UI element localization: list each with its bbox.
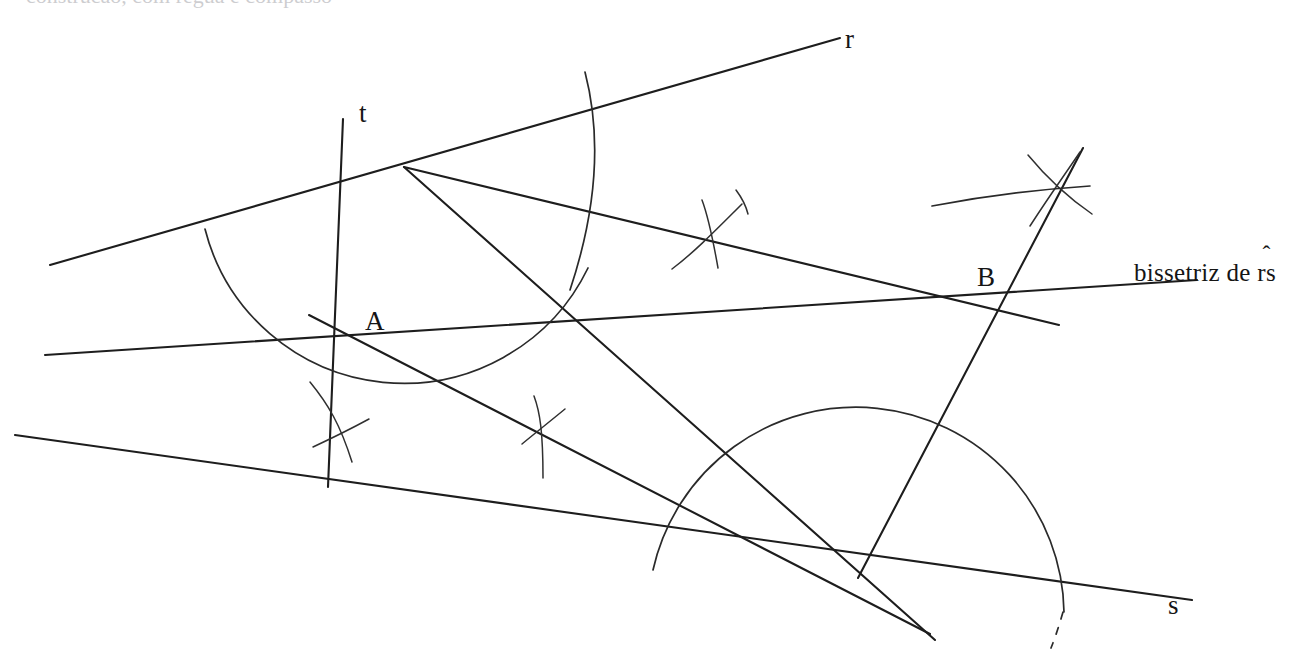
line-s bbox=[15, 435, 1192, 600]
label-line-s: s bbox=[1168, 592, 1179, 619]
arc-cross-upper-mid-vertical bbox=[702, 200, 718, 268]
label-line-t: t bbox=[359, 100, 367, 127]
line-B-perpendicular bbox=[858, 148, 1083, 578]
arc-cross-near-A-lower-right bbox=[313, 419, 369, 447]
line-top-vertex-to-bottom-vertex bbox=[404, 167, 935, 640]
arc-bottom-dashed-tail bbox=[1051, 612, 1063, 648]
arc-shallow-right bbox=[932, 186, 1090, 206]
line-A-to-bottom-vertex bbox=[309, 315, 930, 634]
arc-top-vertex-upper-sweep bbox=[570, 72, 595, 290]
label-line-r: r bbox=[845, 26, 854, 53]
line-r bbox=[50, 38, 840, 265]
angle-hat-accent: ˆ bbox=[1257, 243, 1276, 267]
label-point-a: A bbox=[365, 308, 385, 335]
construction-figure-page: construcao, com regua e compasso bbox=[0, 0, 1304, 666]
arc-bottom-vertex-big bbox=[653, 407, 1064, 612]
label-point-b: B bbox=[977, 264, 995, 291]
arc-cross-mid-diagonal bbox=[522, 409, 565, 444]
label-bisector-angle: ˆrs bbox=[1257, 260, 1276, 285]
line-top-vertex-through-B bbox=[404, 167, 1059, 325]
arc-cross-upper-right-a bbox=[1028, 155, 1092, 214]
construction-canvas bbox=[0, 0, 1304, 666]
label-bisector: bissetriz de ˆrs bbox=[1134, 260, 1276, 285]
arc-cross-mid-vertical bbox=[534, 396, 543, 478]
arc-stub-upper-mid bbox=[736, 190, 748, 214]
label-bisector-prefix: bissetriz de bbox=[1134, 259, 1257, 286]
